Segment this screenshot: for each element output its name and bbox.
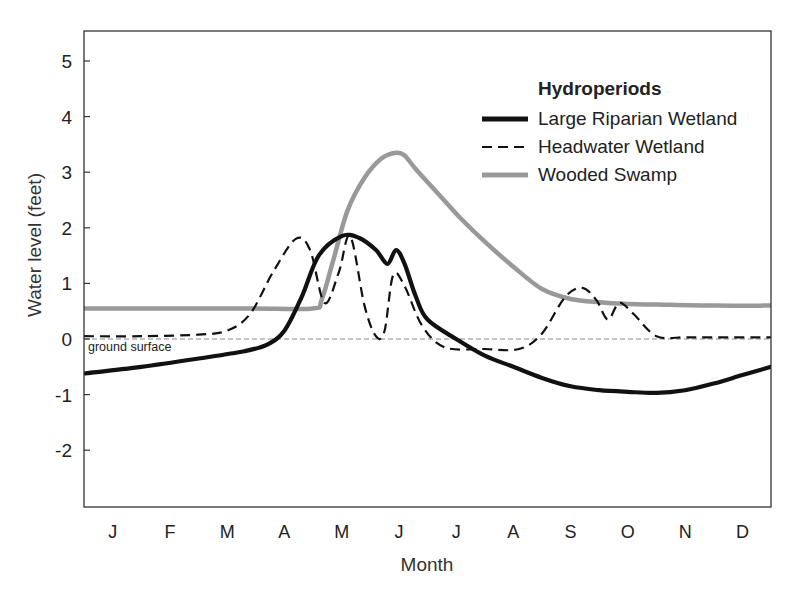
series-line-headwater-wetland xyxy=(84,235,771,350)
y-tick-label: 4 xyxy=(61,107,72,128)
x-tick-label: M xyxy=(220,522,235,542)
chart-canvas: ground surface543210-1-2JFMAMJJASOND xyxy=(0,0,797,594)
series-group xyxy=(84,153,771,393)
y-tick-label: -1 xyxy=(55,385,72,406)
y-tick-label: 3 xyxy=(61,162,72,183)
legend-item-headwater: Headwater Wetland xyxy=(482,134,705,160)
x-tick-label: A xyxy=(278,522,290,542)
x-tick-label: N xyxy=(679,522,692,542)
x-tick-label: J xyxy=(394,522,403,542)
x-tick-label: F xyxy=(164,522,175,542)
x-tick-label: J xyxy=(108,522,117,542)
x-axis-label: Month xyxy=(401,554,454,576)
legend-title: Hydroperiods xyxy=(538,78,662,100)
solid-line-swatch-icon xyxy=(482,114,528,124)
x-tick-label: O xyxy=(621,522,635,542)
y-tick-label: 5 xyxy=(61,51,72,72)
hydroperiod-chart: ground surface543210-1-2JFMAMJJASOND Wat… xyxy=(0,0,797,594)
series-line-large-riparian-wetland xyxy=(84,235,771,393)
y-tick-label: -2 xyxy=(55,440,72,461)
legend-label: Large Riparian Wetland xyxy=(538,108,737,130)
x-tick-label: J xyxy=(452,522,461,542)
y-tick-label: 0 xyxy=(61,329,72,350)
x-tick-label: M xyxy=(334,522,349,542)
legend-label: Headwater Wetland xyxy=(538,136,705,158)
legend-item-large-riparian: Large Riparian Wetland xyxy=(482,106,737,132)
gray-line-swatch-icon xyxy=(482,170,528,180)
dashed-line-swatch-icon xyxy=(482,142,528,152)
x-tick-label: D xyxy=(736,522,749,542)
y-tick-label: 2 xyxy=(61,218,72,239)
y-axis-label: Water level (feet) xyxy=(24,173,46,317)
ground-surface-label: ground surface xyxy=(88,340,171,354)
plot-frame xyxy=(84,31,771,507)
y-tick-label: 1 xyxy=(61,273,72,294)
legend-item-wooded-swamp: Wooded Swamp xyxy=(482,162,677,188)
x-tick-label: A xyxy=(507,522,519,542)
x-tick-label: S xyxy=(565,522,577,542)
legend-label: Wooded Swamp xyxy=(538,164,677,186)
